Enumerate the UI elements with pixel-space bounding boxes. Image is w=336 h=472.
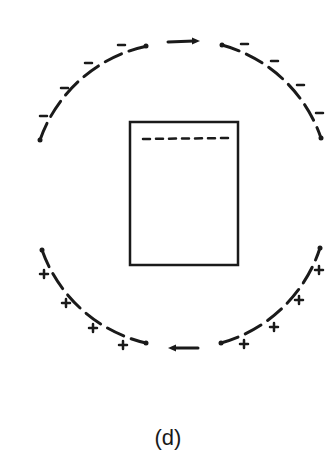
- plus-icon: [295, 296, 303, 304]
- arc-endpoint: [38, 138, 43, 143]
- plate-rectangle: [130, 122, 238, 265]
- arc-endpoint: [219, 341, 224, 346]
- arrow-right-icon: [168, 38, 200, 45]
- plus-icon: [270, 323, 278, 331]
- arrow-left-icon: [168, 345, 198, 352]
- arc-endpoint: [319, 136, 324, 141]
- plus-icon: [315, 266, 323, 274]
- plate-dashed-line: [143, 138, 228, 139]
- arc-endpoint: [144, 44, 149, 49]
- plus-icon: [119, 341, 127, 349]
- plus-icon: [62, 299, 70, 307]
- positive-charges: [40, 266, 323, 349]
- arc-endpoint: [220, 43, 225, 48]
- arc-endpoint: [318, 246, 323, 251]
- arc-endpoint: [40, 248, 45, 253]
- diagram-figure: [0, 0, 336, 472]
- upper-arc: [38, 43, 324, 143]
- arc-endpoint: [144, 341, 149, 346]
- plus-icon: [89, 324, 97, 332]
- negative-charges: [40, 44, 323, 116]
- plus-icon: [240, 340, 248, 348]
- figure-caption: (d): [0, 425, 336, 451]
- plus-icon: [40, 270, 48, 278]
- lower-arc: [40, 246, 323, 346]
